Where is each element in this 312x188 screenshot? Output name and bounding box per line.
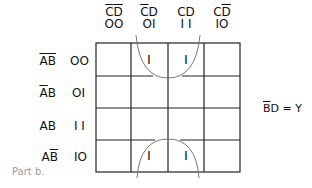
col-header-3: CD IO (204, 6, 240, 30)
row-code-0: OO (70, 55, 94, 67)
cell-3-1: I (131, 150, 167, 162)
cell-0-1: I (131, 54, 167, 66)
row-var-3: AB (22, 151, 58, 163)
col-header-0: CD OO (96, 6, 132, 30)
col-header-2: CD I I (168, 6, 204, 30)
result-equation: BD = Y (263, 103, 302, 115)
cell-0-2: I (168, 54, 204, 66)
cell-3-2: I (168, 150, 204, 162)
row-var-0: AB (20, 55, 56, 67)
row-var-2: AB (20, 120, 56, 132)
row-code-1: OI (72, 87, 96, 99)
col-header-1: CD OI (131, 6, 167, 30)
row-code-3: IO (74, 151, 98, 163)
row-code-2: I I (74, 120, 98, 132)
caption: Part b. (12, 166, 44, 177)
row-var-1: AB (20, 87, 56, 99)
